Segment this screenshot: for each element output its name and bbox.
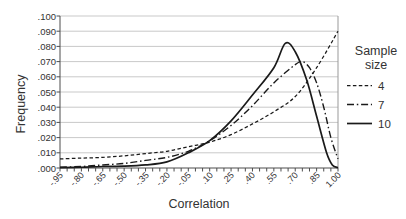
y-tick-label: .010 (0, 147, 56, 158)
dashed-line-sample-icon (346, 81, 373, 90)
y-tick-label: .000 (0, 163, 56, 174)
y-tick-label: .070 (0, 56, 56, 67)
legend: Sample size 4 7 10 (346, 44, 406, 130)
legend-item-sample-10: 10 (346, 118, 406, 130)
y-tick-label: .100 (0, 11, 56, 22)
solid-line-sample-icon (346, 119, 373, 128)
y-tick-label: .050 (0, 87, 56, 98)
y-tick-label: .020 (0, 132, 56, 143)
legend-label-4: 4 (378, 80, 384, 92)
y-tick-label: .030 (0, 117, 56, 128)
x-axis-title: Correlation (60, 197, 338, 211)
y-tick-label: .080 (0, 41, 56, 52)
dash-dot-line-sample-icon (346, 100, 373, 109)
legend-title-line1: Sample (346, 44, 406, 58)
legend-label-7: 7 (378, 99, 384, 111)
legend-title: Sample size (346, 44, 406, 73)
y-tick-label: .090 (0, 26, 56, 37)
legend-title-line2: size (346, 58, 406, 72)
legend-item-sample-7: 7 (346, 99, 406, 111)
legend-label-10: 10 (378, 118, 391, 130)
y-axis-title: Frequency (14, 74, 28, 133)
series-line-4 (60, 31, 338, 159)
legend-item-sample-4: 4 (346, 80, 406, 92)
y-tick-label: .060 (0, 71, 56, 82)
frequency-correlation-chart: .100.090.080.070.060.050.040.030.020.010… (0, 0, 406, 219)
y-tick-label: .040 (0, 102, 56, 113)
